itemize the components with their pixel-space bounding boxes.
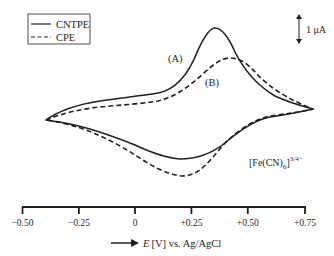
svg-text:[Fe(CN)6]3/4−: [Fe(CN)6]3/4−	[249, 155, 303, 171]
x-tick-label: 0	[133, 218, 138, 228]
axis-direction-arrow-icon	[131, 239, 139, 247]
peak-label-b: (B)	[205, 77, 220, 89]
x-tick-label: −0.50	[12, 218, 34, 228]
legend: CNTPE CPE	[28, 14, 90, 44]
cyclic-voltammogram-chart: CNTPE CPE 1 μA (A) (B) [Fe(CN)6]3/4− −0.…	[0, 0, 334, 256]
peak-label-a: (A)	[168, 53, 183, 65]
scale-bar-arrow-down-icon	[296, 39, 302, 44]
scale-bar-label: 1 μA	[306, 24, 327, 35]
legend-label-cntpe: CNTPE	[56, 19, 89, 30]
species-superscript: 3/4−	[290, 155, 303, 163]
svg-text:E[V] vs. Ag/AgCl: E[V] vs. Ag/AgCl	[142, 238, 221, 249]
x-axis-label: E[V] vs. Ag/AgCl	[111, 238, 221, 249]
cntpe-curve	[46, 28, 313, 159]
scale-bar-arrow-up-icon	[296, 14, 302, 19]
species-label: [Fe(CN)6]3/4−	[249, 155, 303, 171]
scale-bar: 1 μA	[296, 14, 327, 44]
xlabel-ref: vs. Ag/AgCl	[166, 238, 221, 249]
x-axis: −0.50 −0.25 0 +0.25 +0.50 +0.75	[12, 207, 317, 228]
x-tick-label: −0.25	[68, 218, 90, 228]
legend-label-cpe: CPE	[56, 32, 75, 43]
xlabel-v: [V]	[151, 238, 166, 249]
species-base: [Fe(CN)	[249, 157, 283, 169]
xlabel-e: E	[142, 238, 150, 249]
x-tick-label: +0.25	[180, 218, 202, 228]
x-tick-label: +0.50	[237, 218, 259, 228]
x-tick-label: +0.75	[294, 218, 316, 228]
